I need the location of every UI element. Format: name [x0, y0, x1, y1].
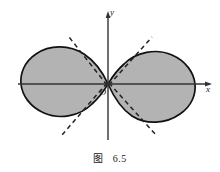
caption-label: 图	[93, 153, 104, 164]
lemniscate-plot	[0, 0, 220, 172]
figure-container: y x O 图6.5	[0, 0, 220, 172]
origin-label: O	[100, 88, 106, 97]
caption-number: 6.5	[113, 153, 127, 164]
y-axis-label: y	[110, 8, 114, 17]
y-axis	[106, 11, 111, 140]
x-axis-label: x	[206, 85, 210, 94]
figure-caption: 图6.5	[0, 150, 220, 165]
